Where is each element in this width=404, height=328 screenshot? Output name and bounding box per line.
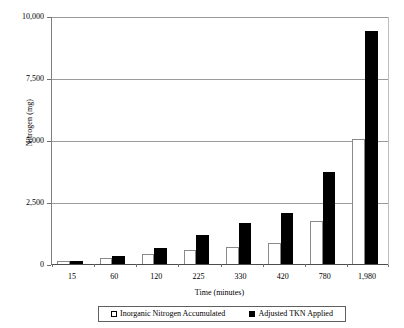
bar-adjusted-tkn-applied — [365, 31, 378, 264]
bar-inorganic-nitrogen-accumulated — [268, 243, 281, 264]
bar-group — [178, 16, 220, 264]
bar-inorganic-nitrogen-accumulated — [142, 254, 155, 264]
bar-chart: Nitrogen (mg) 02,5005,0007,50010,000 156… — [0, 0, 404, 328]
legend-label: Adjusted TKN Applied — [258, 310, 333, 318]
x-axis-tickmark — [221, 264, 222, 267]
bar-group — [347, 16, 389, 264]
bar-inorganic-nitrogen-accumulated — [100, 258, 113, 264]
bar-group — [305, 16, 347, 264]
x-axis-tickmark — [52, 264, 53, 267]
legend-swatch-open-square-icon — [111, 311, 117, 317]
legend-label: Inorganic Nitrogen Accumulated — [120, 310, 225, 318]
x-axis-tickmark — [94, 264, 95, 267]
bar-group — [263, 16, 305, 264]
bar-inorganic-nitrogen-accumulated — [184, 250, 197, 264]
plot-frame-right-edge — [388, 17, 389, 265]
x-axis-tick-label: 1,980 — [341, 273, 393, 281]
bar-group — [136, 16, 178, 264]
bar-group — [94, 16, 136, 264]
x-axis-title: Time (minutes) — [51, 288, 388, 297]
legend-entry-inorganic-nitrogen-accumulated: Inorganic Nitrogen Accumulated — [111, 310, 225, 318]
bar-adjusted-tkn-applied — [281, 213, 294, 264]
x-axis-tickmark — [136, 264, 137, 267]
bar-inorganic-nitrogen-accumulated — [226, 247, 239, 264]
x-axis-tickmark — [178, 264, 179, 267]
chart-legend: Inorganic Nitrogen Accumulated Adjusted … — [98, 306, 346, 322]
x-axis-tickmark — [263, 264, 264, 267]
bar-adjusted-tkn-applied — [112, 256, 125, 264]
plot-area — [51, 17, 388, 265]
bar-adjusted-tkn-applied — [196, 235, 209, 264]
legend-entry-adjusted-tkn-applied: Adjusted TKN Applied — [249, 310, 333, 318]
x-axis-tickmark — [305, 264, 306, 267]
y-axis-tick-label: 10,000 — [6, 13, 44, 21]
y-axis-title: Nitrogen (mg) — [25, 68, 34, 178]
bar-adjusted-tkn-applied — [323, 172, 336, 264]
bar-inorganic-nitrogen-accumulated — [310, 221, 323, 264]
bar-inorganic-nitrogen-accumulated — [57, 261, 70, 264]
y-axis-tick-label: 7,500 — [6, 75, 44, 83]
y-axis-tick-label: 0 — [6, 261, 44, 269]
y-axis-tick-label: 2,500 — [6, 199, 44, 207]
y-axis-tickmark — [47, 265, 51, 266]
legend-swatch-filled-square-icon — [249, 311, 255, 317]
bar-adjusted-tkn-applied — [239, 223, 252, 264]
bar-inorganic-nitrogen-accumulated — [352, 139, 365, 264]
x-axis-tickmark — [347, 264, 348, 267]
bar-group — [52, 16, 94, 264]
y-axis-tick-label: 5,000 — [6, 137, 44, 145]
bar-adjusted-tkn-applied — [154, 248, 167, 264]
bar-adjusted-tkn-applied — [70, 261, 83, 264]
bar-group — [221, 16, 263, 264]
